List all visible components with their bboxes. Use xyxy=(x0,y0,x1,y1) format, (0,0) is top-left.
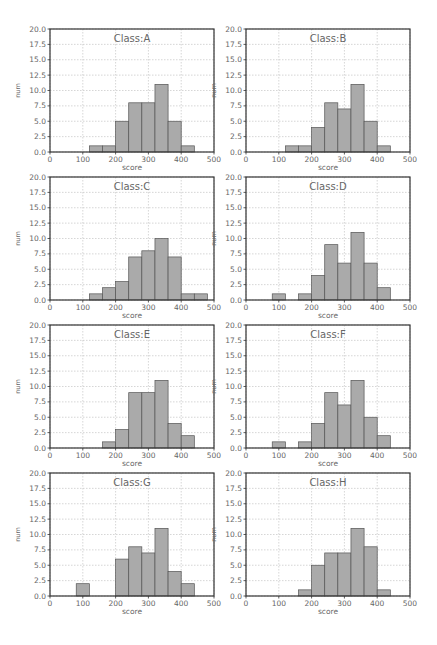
panel-title: Class:H xyxy=(309,477,346,488)
histogram-panel-h: 01002003004005000.02.55.07.510.012.515.0… xyxy=(0,0,437,645)
x-tick-label: 100 xyxy=(272,599,287,608)
y-tick-label: 7.5 xyxy=(230,545,242,554)
histogram-bar xyxy=(325,553,338,596)
x-tick-label: 0 xyxy=(244,599,249,608)
x-axis-label: score xyxy=(318,607,339,616)
y-tick-label: 12.5 xyxy=(225,515,242,524)
x-tick-label: 400 xyxy=(370,599,385,608)
y-tick-label: 15.0 xyxy=(225,499,242,508)
histogram-bar xyxy=(351,528,364,596)
x-tick-label: 200 xyxy=(304,599,319,608)
histogram-bar xyxy=(364,547,377,596)
histogram-bar xyxy=(312,565,325,596)
y-axis-label: num xyxy=(210,527,218,542)
y-tick-label: 17.5 xyxy=(225,484,242,493)
y-tick-label: 5.0 xyxy=(230,561,242,570)
histogram-bar xyxy=(338,553,351,596)
y-tick-label: 2.5 xyxy=(230,576,242,585)
y-tick-label: 0.0 xyxy=(230,592,242,601)
histogram-bars xyxy=(298,528,390,596)
x-tick-label: 500 xyxy=(403,599,418,608)
y-tick-label: 20.0 xyxy=(225,469,242,478)
histogram-bar xyxy=(298,590,311,596)
histogram-bar xyxy=(377,590,390,596)
y-tick-label: 10.0 xyxy=(225,530,242,539)
x-tick-label: 300 xyxy=(337,599,352,608)
